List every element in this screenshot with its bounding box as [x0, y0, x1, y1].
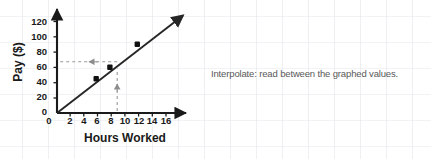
x-tick-label-16: 16 — [158, 115, 174, 126]
y-axis-title: Pay ($) — [11, 32, 25, 92]
data-point-6-45 — [94, 76, 99, 81]
y-tick-label-80: 80 — [23, 46, 47, 57]
pay-vs-hours-chart: 120 100 80 60 40 20 0 0 2 4 6 8 10 12 14… — [0, 0, 200, 159]
screenshot-page: 120 100 80 60 40 20 0 0 2 4 6 8 10 12 14… — [0, 0, 431, 159]
data-line — [57, 16, 183, 114]
y-tick-label-40: 40 — [23, 76, 47, 87]
y-tick-label-100: 100 — [23, 31, 47, 42]
y-tick-label-120: 120 — [23, 16, 47, 27]
interpolate-caption: Interpolate: read between the graphed va… — [211, 67, 421, 80]
data-point-12-90 — [135, 42, 140, 47]
x-axis-title: Hours Worked — [55, 131, 195, 145]
y-tick-label-60: 60 — [23, 61, 47, 72]
y-tick-label-20: 20 — [23, 91, 47, 102]
x-tick-label-0: 0 — [41, 115, 57, 126]
data-point-8-60 — [107, 65, 112, 70]
